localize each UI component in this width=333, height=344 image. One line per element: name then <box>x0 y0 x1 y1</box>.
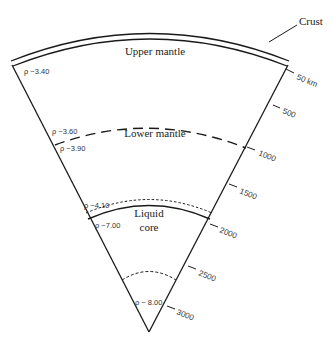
liquid-core-label-line1: Liquid <box>134 207 164 219</box>
earth-cross-section-diagram: Crust Upper mantle ρ ~3.40 Lower mantle … <box>0 0 333 344</box>
wedge-left-edge <box>12 65 149 332</box>
depth-tick <box>188 266 196 269</box>
depth-scale: 50 km 500 1000 1500 2000 2500 3000 <box>167 69 319 323</box>
depth-tick-label: 2500 <box>197 269 217 284</box>
depth-tick-label: 50 km <box>295 73 319 90</box>
lower-mantle-label: Lower mantle <box>124 127 186 139</box>
depth-tick-label: 3000 <box>175 308 195 323</box>
depth-tick <box>286 69 294 73</box>
upper-mantle-label: Upper mantle <box>125 45 185 57</box>
depth-tick-label: 1500 <box>238 187 258 202</box>
density-core-top: ρ ~7.00 <box>95 221 120 230</box>
depth-tick-label: 500 <box>281 107 297 121</box>
density-upper-mantle-top: ρ ~3.40 <box>24 67 49 76</box>
depth-tick-label: 1000 <box>257 149 277 164</box>
liquid-core-label-line2: core <box>140 221 159 233</box>
depth-tick <box>210 224 218 227</box>
depth-tick <box>273 105 280 108</box>
density-lower-mantle-bottom: ρ ~4.10 <box>84 201 109 210</box>
depth-tick-label: 2000 <box>218 226 238 241</box>
density-lower-mantle-top: ρ ~3.90 <box>60 144 85 153</box>
density-upper-mantle-bottom: ρ ~3.60 <box>52 127 77 136</box>
inner-core-boundary <box>122 272 176 281</box>
depth-tick <box>229 184 237 187</box>
crust-label: Crust <box>299 15 323 27</box>
depth-tick <box>167 306 175 309</box>
crust-pointer-line <box>269 25 297 42</box>
wedge-right-edge <box>149 65 288 332</box>
depth-tick <box>247 147 255 150</box>
density-inner: ρ ~ 8.00 <box>135 298 162 307</box>
